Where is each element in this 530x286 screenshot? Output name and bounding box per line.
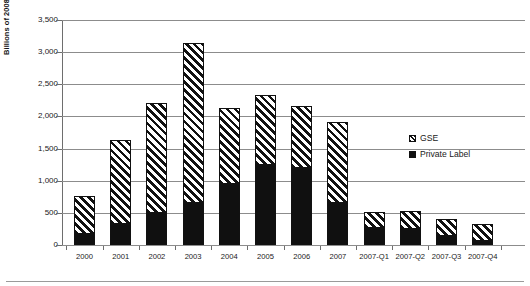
x-axis-category-label: 2001 — [112, 252, 129, 261]
y-tick-mark — [56, 20, 62, 21]
bar-group — [327, 20, 348, 245]
bar-segment-private-label — [364, 228, 385, 245]
bar-segment-gse — [327, 122, 348, 204]
x-tick-mark — [139, 246, 140, 250]
bar-segment-gse — [255, 95, 276, 165]
x-tick-mark — [392, 246, 393, 250]
bar-segment-gse — [291, 106, 312, 168]
x-tick-mark — [501, 246, 502, 250]
hatched-square-icon — [409, 135, 416, 142]
x-tick-mark — [356, 246, 357, 250]
y-tick-label: 3,000 — [14, 47, 58, 56]
bar-segment-gse — [110, 140, 131, 225]
y-axis-tick-labels: 3,5003,0002,5002,0001,5001,0005000 — [14, 0, 58, 286]
y-tick-label: 2,000 — [14, 111, 58, 120]
y-tick-label: 3,500 — [14, 15, 58, 24]
y-tick-mark — [56, 245, 62, 246]
y-tick-mark — [56, 52, 62, 53]
bar-segment-private-label — [183, 203, 204, 245]
bar-segment-gse — [146, 103, 167, 213]
x-axis-category-label: 2006 — [293, 252, 310, 261]
x-axis-category-label: 2007 — [329, 252, 346, 261]
gridline — [62, 245, 525, 246]
y-tick-mark — [56, 181, 62, 182]
chart-legend: GSE Private Label — [409, 130, 519, 162]
bar-group — [291, 20, 312, 245]
bar-segment-gse — [436, 219, 457, 236]
x-tick-mark — [465, 246, 466, 250]
x-tick-mark — [284, 246, 285, 250]
bar-segment-private-label — [436, 236, 457, 245]
y-tick-mark — [56, 149, 62, 150]
x-tick-mark — [211, 246, 212, 250]
x-tick-mark — [428, 246, 429, 250]
x-tick-mark — [175, 246, 176, 250]
bar-segment-private-label — [110, 224, 131, 245]
y-tick-label: 2,500 — [14, 79, 58, 88]
bar-segment-gse — [74, 196, 95, 234]
bar-segment-private-label — [146, 213, 167, 245]
bar-group — [74, 20, 95, 245]
bar-group — [183, 20, 204, 245]
x-tick-mark — [103, 246, 104, 250]
y-tick-label: 0 — [14, 240, 58, 249]
x-axis-category-label: 2003 — [185, 252, 202, 261]
bar-segment-private-label — [219, 184, 240, 245]
footer-divider — [6, 281, 524, 282]
mortgage-securitization-bar-chart: Billions of 2008 Dollars 3,5003,0002,500… — [0, 0, 530, 286]
bar-segment-gse — [219, 108, 240, 184]
y-tick-label: 1,500 — [14, 144, 58, 153]
x-axis-category-label: 2005 — [257, 252, 274, 261]
bar-segment-gse — [400, 211, 421, 229]
bar-segment-gse — [364, 212, 385, 228]
bar-segment-private-label — [255, 165, 276, 245]
bar-group — [364, 20, 385, 245]
x-axis-category-label: 2004 — [221, 252, 238, 261]
x-tick-mark — [247, 246, 248, 250]
bar-group — [219, 20, 240, 245]
bar-segment-gse — [472, 224, 493, 242]
x-axis-category-label: 2007-Q3 — [432, 252, 462, 261]
legend-item-gse: GSE — [409, 130, 519, 146]
y-tick-mark — [56, 84, 62, 85]
x-tick-mark — [320, 246, 321, 250]
y-tick-mark — [56, 213, 62, 214]
bar-segment-private-label — [327, 203, 348, 245]
x-axis-category-label: 2007-Q4 — [468, 252, 498, 261]
legend-item-private-label: Private Label — [409, 146, 519, 162]
x-axis-category-label: 2007-Q1 — [359, 252, 389, 261]
x-axis-category-label: 2000 — [76, 252, 93, 261]
bar-group — [110, 20, 131, 245]
bar-segment-private-label — [400, 229, 421, 245]
y-tick-label: 500 — [14, 208, 58, 217]
filled-square-icon — [409, 151, 416, 158]
bar-group — [255, 20, 276, 245]
x-axis-category-label: 2002 — [148, 252, 165, 261]
bar-segment-private-label — [472, 241, 493, 245]
legend-label-gse: GSE — [420, 133, 438, 143]
y-tick-label: 1,000 — [14, 176, 58, 185]
y-tick-mark — [56, 116, 62, 117]
x-axis-category-label: 2007-Q2 — [396, 252, 426, 261]
bar-segment-private-label — [291, 168, 312, 245]
bar-segment-private-label — [74, 234, 95, 245]
bar-group — [146, 20, 167, 245]
bar-segment-gse — [183, 43, 204, 203]
x-tick-mark — [66, 246, 67, 250]
legend-label-private-label: Private Label — [420, 149, 470, 159]
